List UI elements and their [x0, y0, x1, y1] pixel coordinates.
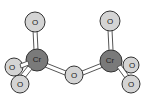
atom-label: O [32, 18, 38, 27]
atom-o-bottom-right: O [122, 75, 140, 93]
atom-label: O [71, 71, 77, 80]
bond-cr-left-o-top-left [33, 30, 38, 50]
dichromate-molecule-diagram: O O Cr Cr O O O O O [0, 0, 148, 105]
bond-cr-right-o-top-right [108, 30, 113, 50]
bond-cr-left-o-bridge [45, 63, 66, 75]
atom-o-top-left: O [25, 12, 45, 32]
atom-label: O [17, 80, 23, 89]
atom-label: O [107, 17, 113, 26]
atom-label: Cr [106, 56, 115, 65]
atom-o-bridge: O [65, 66, 83, 84]
atom-label: O [129, 61, 135, 70]
atom-label: Cr [33, 55, 42, 64]
bond-cr-right-o-bridge [82, 63, 103, 75]
atom-o-bottom-left: O [11, 75, 29, 93]
atom-label: O [9, 63, 15, 72]
atom-o-top-right: O [100, 11, 120, 31]
atom-label: O [128, 80, 134, 89]
